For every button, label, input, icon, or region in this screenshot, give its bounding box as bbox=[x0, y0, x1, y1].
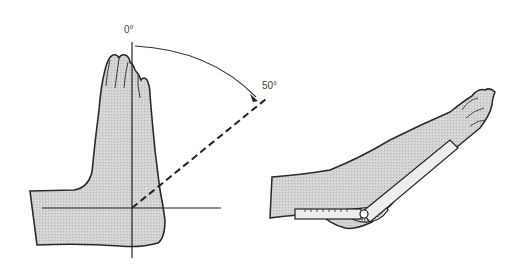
angle-label-0: 0° bbox=[124, 24, 134, 35]
left-foot-figure: 0° 50° bbox=[30, 24, 277, 258]
angle-arc bbox=[135, 46, 256, 97]
goniometer-pivot bbox=[360, 210, 368, 218]
angle-label-50: 50° bbox=[262, 80, 277, 91]
goniometry-diagram: 0° 50° bbox=[0, 0, 526, 269]
right-foot-figure bbox=[270, 89, 495, 229]
foot-silhouette-vertical bbox=[30, 55, 165, 247]
